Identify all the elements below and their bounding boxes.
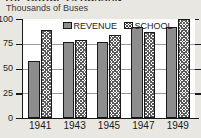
y-axis-tick-label: 75 [3, 39, 13, 48]
y-tick-mark-right [195, 69, 201, 70]
chart-subtitle: Thousands of Buses [6, 3, 88, 13]
bar-school-1943 [75, 40, 87, 118]
legend-swatch-revenue-icon [63, 22, 72, 29]
x-axis-tick-label: 1947 [126, 120, 160, 131]
y-axis-tick-label: 0 [8, 114, 13, 123]
legend-item-school: SCHOOL [124, 21, 173, 31]
bar-chart: THE GROUP 25 BUSSAN Thousands of Buses R… [0, 0, 201, 138]
chart-legend: REVENUE SCHOOL [63, 21, 173, 31]
bar-school-1947 [144, 32, 156, 118]
bar-group [23, 19, 57, 118]
x-axis-tick-label: 1945 [92, 120, 126, 131]
y-tick-mark [16, 69, 23, 70]
x-axis-tick-label: 1943 [57, 120, 91, 131]
x-axis-tick-label: 1949 [161, 120, 195, 131]
bar-group [92, 19, 126, 118]
legend-label-school: SCHOOL [135, 21, 173, 31]
bar-group [57, 19, 91, 118]
bar-revenue-1945 [97, 42, 109, 118]
x-axis-tick-label: 1941 [23, 120, 57, 131]
y-tick-mark-right [195, 93, 201, 94]
legend-item-revenue: REVENUE [63, 21, 117, 31]
bar-group [161, 19, 195, 118]
bar-group [126, 19, 160, 118]
chart-title: THE GROUP 25 BUSSAN [4, 0, 122, 1]
bar-revenue-1941 [28, 61, 40, 118]
x-axis-labels: 19411943194519471949 [23, 120, 199, 136]
y-axis-tick-label: 100 [0, 15, 13, 24]
y-tick-mark [16, 93, 23, 94]
y-axis-tick-label: 50 [3, 64, 13, 73]
bar-school-1945 [109, 35, 121, 118]
y-tick-mark [16, 118, 23, 119]
plot-area [23, 19, 195, 118]
bar-revenue-1943 [63, 42, 75, 118]
legend-label-revenue: REVENUE [74, 21, 118, 31]
bar-school-1949 [178, 19, 190, 118]
y-axis-tick-label: 25 [3, 89, 13, 98]
bar-revenue-1949 [166, 27, 178, 118]
bar-groups [23, 19, 195, 118]
y-tick-mark [16, 44, 23, 45]
legend-swatch-school-icon [124, 22, 133, 29]
bar-school-1941 [41, 30, 53, 118]
y-tick-mark [16, 19, 23, 20]
bar-revenue-1947 [131, 27, 143, 118]
y-tick-mark-right [195, 44, 201, 45]
